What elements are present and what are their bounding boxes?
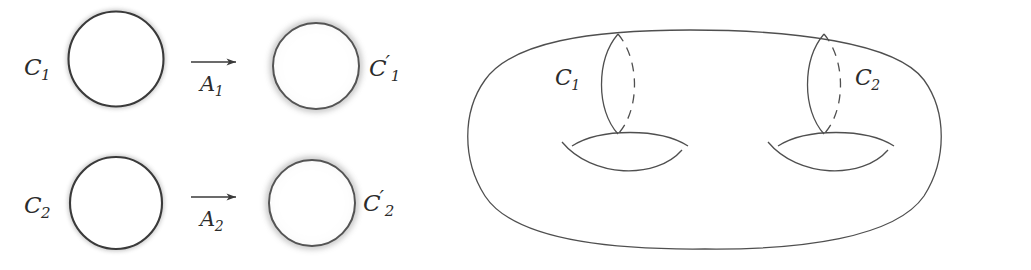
hole-one-lower-arc bbox=[562, 142, 682, 171]
label-a1-sub: 1 bbox=[215, 83, 224, 99]
label-surface-c2-sub: 2 bbox=[871, 77, 880, 93]
label-c2prime-base: C bbox=[363, 190, 381, 216]
hole-two-lower-arc bbox=[768, 142, 888, 171]
handle-one bbox=[562, 34, 688, 171]
handle-two bbox=[768, 34, 894, 171]
label-c2-prime-group: C′2 bbox=[363, 188, 394, 219]
label-c2prime-sub: 2 bbox=[385, 202, 395, 220]
hole-two-upper-arc bbox=[778, 133, 894, 147]
curve-c2-solid bbox=[808, 34, 825, 134]
circles-and-arrows-panel: C1 A1 C′1 C2 A2 C′2 bbox=[0, 0, 440, 270]
label-c2: C2 bbox=[24, 190, 51, 221]
label-c1-prime-group: C′1 bbox=[369, 53, 400, 84]
label-surface-c2: C2 bbox=[855, 62, 880, 92]
label-c1-sub: 1 bbox=[41, 66, 51, 84]
label-c2-base: C bbox=[24, 192, 42, 218]
circle-c1-prime bbox=[273, 23, 359, 109]
label-surface-c2-base: C bbox=[855, 65, 872, 90]
label-c1prime-sub: 1 bbox=[391, 67, 401, 85]
label-c1prime-prime: ′ bbox=[386, 51, 391, 75]
label-c2-sub: 2 bbox=[41, 204, 51, 222]
label-c1prime-base: C bbox=[369, 55, 387, 81]
label-a2-base: A bbox=[200, 207, 215, 231]
hole-one-upper-arc bbox=[572, 133, 688, 147]
label-surface-c1: C1 bbox=[555, 62, 580, 92]
curve-c2-dashed bbox=[824, 34, 841, 134]
label-surface-c1-base: C bbox=[555, 65, 572, 90]
math-figure: C1 A1 C′1 C2 A2 C′2 bbox=[0, 0, 1031, 270]
label-a2: A2 bbox=[200, 203, 224, 233]
label-c1-base: C bbox=[24, 54, 42, 80]
arrow-a1 bbox=[191, 58, 236, 65]
label-c1: C1 bbox=[24, 52, 51, 83]
label-c2prime-prime: ′ bbox=[380, 186, 385, 210]
genus-two-surface-panel: C1 C2 bbox=[440, 0, 1031, 270]
curve-c1-solid bbox=[602, 34, 619, 134]
curve-c1-dashed bbox=[618, 34, 635, 134]
arrow-a2 bbox=[191, 193, 236, 200]
circle-c2-prime bbox=[269, 160, 355, 246]
label-a1-base: A bbox=[200, 72, 215, 96]
circle-c1 bbox=[69, 12, 164, 107]
label-a1: A1 bbox=[200, 68, 224, 98]
label-surface-c1-sub: 1 bbox=[571, 77, 580, 93]
label-a2-sub: 2 bbox=[215, 218, 224, 234]
circle-c2 bbox=[70, 157, 162, 249]
